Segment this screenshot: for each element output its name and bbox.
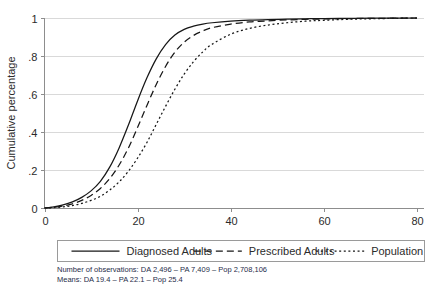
y-tick-label: .6 (28, 89, 37, 101)
x-tick-label: 40 (225, 215, 237, 227)
y-tick-label: .2 (28, 165, 37, 177)
note-line-means: Means: DA 19.4 – PA 22.1 – Pop 25.4 (57, 275, 183, 284)
y-tick-label: 0 (31, 203, 37, 215)
y-tick-label: 1 (31, 13, 37, 25)
note-line-observations: Number of observations: DA 2,496 – PA 7,… (57, 265, 267, 274)
legend-label-population: Population (371, 245, 423, 257)
cumulative-distribution-figure: 0.2.4.6.81 020406080 Cumulative percenta… (0, 0, 436, 289)
y-axis-title: Cumulative percentage (5, 56, 17, 169)
x-tick-label: 20 (132, 215, 144, 227)
x-tick-label: 80 (411, 215, 423, 227)
x-tick-label: 60 (318, 215, 330, 227)
x-tick-label: 0 (42, 215, 48, 227)
y-tick-label: .4 (28, 127, 37, 139)
y-tick-label: .8 (28, 51, 37, 63)
chart-canvas: 0.2.4.6.81 020406080 Cumulative percenta… (0, 0, 436, 289)
